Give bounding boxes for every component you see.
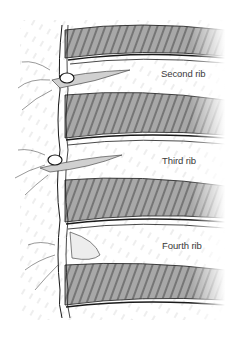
label-third-rib: Third rib xyxy=(162,155,196,166)
label-second-rib: Second rib xyxy=(161,68,205,79)
rib-diagram xyxy=(0,0,225,347)
edge-fade xyxy=(0,0,225,347)
label-fourth-rib: Fourth rib xyxy=(162,240,202,251)
